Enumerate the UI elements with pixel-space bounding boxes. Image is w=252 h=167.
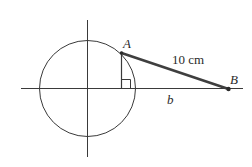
- right-angle-marker: [122, 80, 131, 89]
- diagram-canvas: A B 10 cm b: [0, 0, 252, 167]
- point-b: [226, 87, 230, 91]
- label-base-b: b: [167, 92, 174, 107]
- geometry-diagram: A B 10 cm b: [0, 0, 252, 167]
- point-a: [120, 51, 124, 55]
- label-point-b: B: [230, 72, 238, 87]
- label-point-a: A: [122, 36, 131, 51]
- label-segment-ab-length: 10 cm: [172, 52, 204, 67]
